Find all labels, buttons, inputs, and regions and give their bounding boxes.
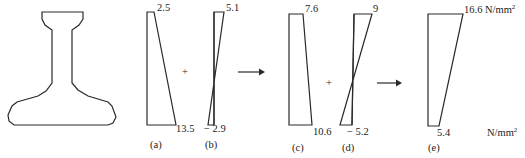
arrowhead-1 <box>259 69 265 76</box>
value-e-bottom: 5.4 <box>437 128 450 139</box>
value-a-bottom: 13.5 <box>176 124 194 135</box>
stress-diagram-e <box>428 14 463 126</box>
caption-e: (e) <box>428 143 440 154</box>
value-b-bottom: − 2.9 <box>204 124 226 135</box>
unit-top-exponent: 2 <box>512 3 516 11</box>
stress-diagram-a <box>147 12 176 125</box>
unit-top: N/mm <box>485 4 512 15</box>
arrowhead-2 <box>396 80 402 87</box>
stress-diagram-c <box>289 14 312 125</box>
value-d-bottom: − 5.2 <box>347 127 369 138</box>
value-c-bottom: 10.6 <box>313 127 331 138</box>
caption-a: (a) <box>150 140 162 151</box>
plus-sign-1: + <box>182 67 188 78</box>
unit-bottom: N/mm2 <box>487 128 517 139</box>
value-e-top: 16.6 N/mm2 <box>464 5 515 16</box>
beam-cross-section <box>8 12 116 125</box>
plus-sign-2: + <box>326 78 332 89</box>
stress-diagram-d <box>340 14 372 125</box>
value-a-top: 2.5 <box>157 3 170 14</box>
stress-diagram-b <box>208 12 224 125</box>
caption-c: (c) <box>292 143 304 154</box>
caption-b: (b) <box>205 140 217 151</box>
value-c-top: 7.6 <box>305 4 318 15</box>
value-e-top-number: 16.6 <box>464 4 482 15</box>
value-b-top: 5.1 <box>226 3 239 14</box>
caption-d: (d) <box>342 143 354 154</box>
value-d-top: 9 <box>373 4 378 15</box>
